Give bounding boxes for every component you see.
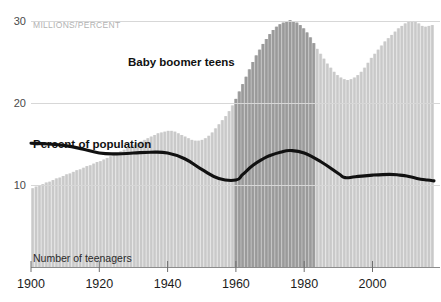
bar xyxy=(272,30,274,267)
bar xyxy=(309,37,311,267)
bar xyxy=(167,131,169,267)
y-tick-label: 20 xyxy=(14,97,26,109)
bar xyxy=(299,25,301,267)
bar xyxy=(265,39,267,267)
bar xyxy=(215,128,217,267)
x-tick-label: 2000 xyxy=(359,277,387,291)
bar xyxy=(377,50,379,267)
y-tick-label: 10 xyxy=(14,179,26,191)
bar xyxy=(343,79,345,267)
bar xyxy=(126,148,128,267)
axis-unit-label: MILLIONS/PERCENT xyxy=(33,20,120,30)
bar xyxy=(204,138,206,267)
bar xyxy=(110,156,112,267)
bar xyxy=(198,141,200,267)
bar xyxy=(431,25,433,267)
bar xyxy=(367,63,369,267)
bar xyxy=(225,116,227,267)
bar xyxy=(154,135,156,267)
bar xyxy=(147,138,149,267)
bar xyxy=(340,78,342,267)
x-tick-label: 1920 xyxy=(85,277,113,291)
bar xyxy=(177,133,179,267)
x-tick-label: 1980 xyxy=(290,277,318,291)
bar xyxy=(150,137,152,267)
bar xyxy=(140,142,142,267)
bar xyxy=(133,145,135,267)
bar xyxy=(269,34,271,267)
bar xyxy=(292,21,294,267)
bar xyxy=(404,23,406,267)
bar xyxy=(279,24,281,267)
bar xyxy=(391,35,393,267)
bar xyxy=(201,140,203,267)
bar xyxy=(235,99,237,267)
bar xyxy=(397,28,399,267)
bar xyxy=(231,105,233,267)
bar xyxy=(218,124,220,267)
chart-canvas: 102030 190019201940196019802000 MILLIONS… xyxy=(0,0,441,302)
bar xyxy=(370,58,372,267)
bar xyxy=(313,43,315,267)
bar xyxy=(170,131,172,267)
bar xyxy=(303,28,305,267)
bar xyxy=(296,23,298,267)
bar xyxy=(384,42,386,268)
bar xyxy=(120,151,122,267)
bar xyxy=(113,155,115,267)
annotation-percent-of-population: Percent of population xyxy=(33,138,151,150)
bar xyxy=(421,26,423,267)
bar xyxy=(194,141,196,267)
bar xyxy=(353,78,355,267)
annotation-number-of-teenagers: Number of teenagers xyxy=(33,252,132,264)
annotation-baby-boomer-teens: Baby boomer teens xyxy=(128,56,235,68)
bar xyxy=(259,50,261,267)
x-tick-label: 1960 xyxy=(222,277,250,291)
bar xyxy=(184,137,186,267)
bar xyxy=(116,153,118,267)
bar xyxy=(414,22,416,267)
bar xyxy=(411,21,413,267)
bar xyxy=(360,72,362,267)
bar xyxy=(211,133,213,267)
bar xyxy=(143,140,145,267)
x-tick-label: 1900 xyxy=(17,277,45,291)
bar xyxy=(106,158,108,267)
bar xyxy=(208,136,210,267)
bar xyxy=(418,23,420,267)
bar xyxy=(174,132,176,267)
bar xyxy=(424,27,426,267)
bar xyxy=(282,23,284,267)
bar xyxy=(191,140,193,267)
bar xyxy=(103,160,105,267)
bar xyxy=(350,79,352,267)
bar xyxy=(387,38,389,267)
bar xyxy=(374,54,376,267)
y-tick-label: 30 xyxy=(14,15,26,27)
bar xyxy=(228,111,230,267)
bar xyxy=(347,80,349,267)
bar xyxy=(262,44,264,267)
bar xyxy=(275,27,277,267)
bar xyxy=(428,26,430,267)
bar xyxy=(380,46,382,267)
bar xyxy=(401,26,403,267)
bar xyxy=(137,143,139,267)
bar xyxy=(181,135,183,267)
bar xyxy=(289,20,291,267)
bar xyxy=(306,32,308,267)
bar xyxy=(364,68,366,267)
bar xyxy=(123,150,125,267)
x-tick-label: 1940 xyxy=(154,277,182,291)
bar xyxy=(394,32,396,267)
bar xyxy=(187,138,189,267)
bar xyxy=(130,146,132,267)
teenagers-population-chart: 102030 190019201940196019802000 MILLIONS… xyxy=(0,0,441,302)
bar xyxy=(286,21,288,267)
bar xyxy=(408,22,410,267)
bar xyxy=(221,120,223,267)
